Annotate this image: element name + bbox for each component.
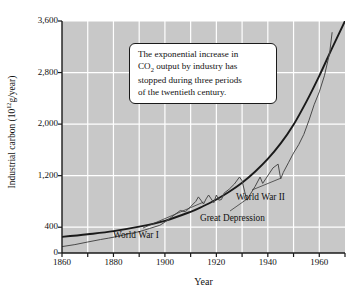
annotation-great-depression: Great Depression <box>200 213 265 223</box>
callout-line-2: CO2 output by industry has <box>138 61 269 75</box>
x-tick-label: 1920 <box>194 257 238 267</box>
x-tick-label: 1880 <box>91 257 135 267</box>
y-axis-label-exponent: 12 <box>5 103 12 109</box>
chart-figure: 04001,2002,0002,8003,600 Industrial carb… <box>0 0 355 297</box>
y-axis-label-tail: g/year) <box>7 76 17 103</box>
x-tick-label: 1960 <box>297 257 341 267</box>
x-tick-label: 1940 <box>246 257 290 267</box>
x-axis-label: Year <box>62 276 345 287</box>
annotation-world-war-2: World War II <box>236 192 285 202</box>
x-tick-label: 1900 <box>143 257 187 267</box>
callout-line-1: The exponential increase in <box>138 49 269 61</box>
callout-line-3: stopped during three periods <box>138 75 269 87</box>
callout-line-2-tail: output by industry has <box>154 61 237 71</box>
annotation-world-war-1: World War I <box>113 230 159 240</box>
y-axis-label-main: Industrial carbon (10 <box>7 109 17 189</box>
callout-co2-text: CO <box>138 61 151 71</box>
callout-box: The exponential increase in CO2 output b… <box>129 43 277 104</box>
y-axis-label: Industrial carbon (1012g/year) <box>2 0 20 265</box>
x-tick-label: 1860 <box>40 257 84 267</box>
callout-line-4: of the twentieth century. <box>138 87 269 99</box>
